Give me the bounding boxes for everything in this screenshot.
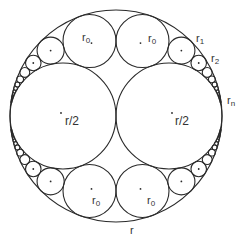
label-r0-bottom-left: r0	[92, 195, 100, 208]
label-r2: r2	[211, 53, 219, 66]
circle-packing-diagram	[0, 0, 243, 239]
chain-circle-r14	[11, 102, 12, 103]
center-dot-r0	[91, 188, 93, 190]
center-dot-r1	[180, 180, 182, 182]
center-dot-r1	[50, 50, 52, 52]
center-dot-r1	[180, 50, 182, 52]
label-r0-top-right: r0	[148, 33, 156, 46]
center-dot-r0	[91, 42, 93, 44]
center-dot-r0	[140, 188, 142, 190]
center-dot-r2	[32, 168, 34, 170]
circles-group	[10, 10, 222, 222]
chain-circle-r0	[63, 164, 116, 217]
chain-circle-r14	[220, 129, 221, 130]
center-dot-big-left	[60, 112, 62, 114]
label-r0-bottom-right: r0	[147, 195, 155, 208]
center-dot-r0	[140, 42, 142, 44]
center-dot-r2	[198, 168, 200, 170]
big-circle-left	[10, 63, 116, 169]
label-r1: r1	[196, 33, 204, 46]
center-dot-big-right	[171, 112, 173, 114]
label-big-left: r/2	[65, 115, 79, 127]
chain-circle-r0	[116, 164, 169, 217]
label-rn: rn	[227, 95, 235, 108]
label-r0-top-left: r0	[82, 32, 90, 45]
chain-circle-r0	[116, 15, 169, 68]
chain-circle-r14	[11, 129, 12, 130]
label-big-right: r/2	[175, 115, 189, 127]
center-dot-r2	[198, 62, 200, 64]
label-outer-r: r	[130, 225, 134, 236]
center-dot-r2	[32, 62, 34, 64]
big-circle-right	[116, 63, 222, 169]
chain-circle-r14	[220, 102, 221, 103]
center-dot-r1	[50, 180, 52, 182]
